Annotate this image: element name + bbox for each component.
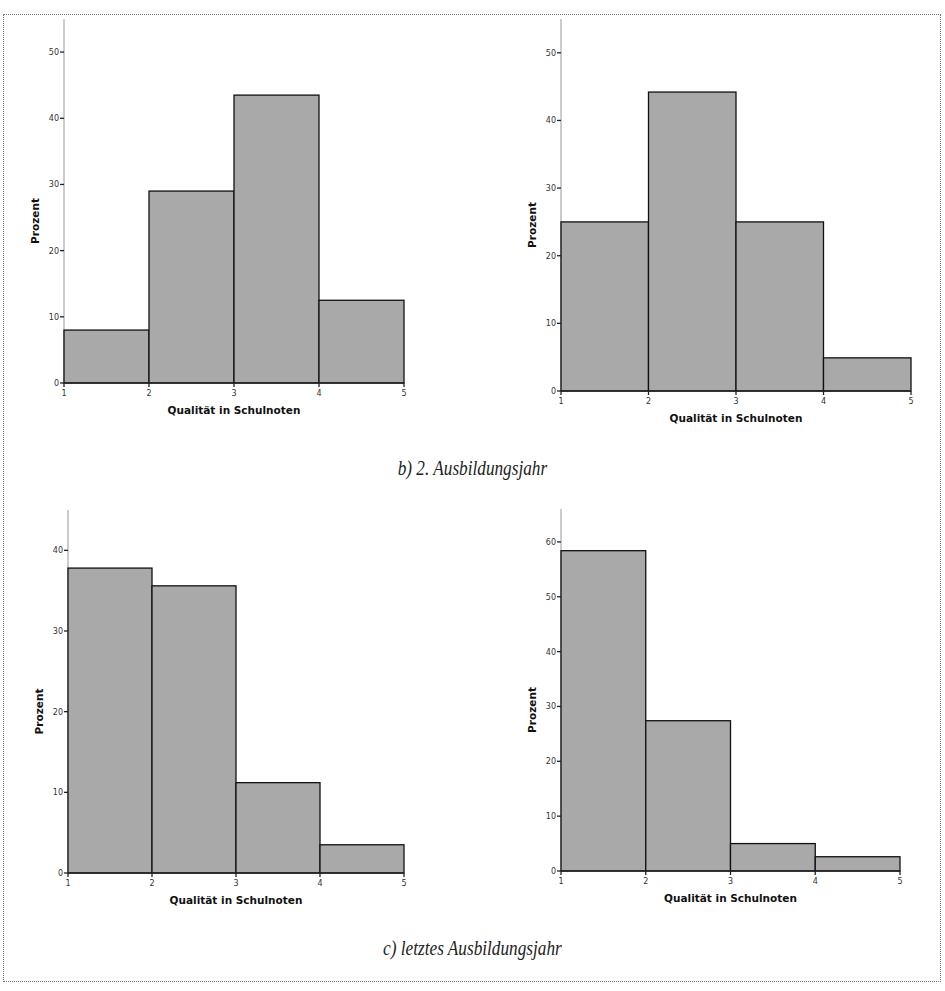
x-tick-label: 1 xyxy=(65,879,70,888)
histogram-bar xyxy=(320,845,404,873)
y-tick-label: 10 xyxy=(53,788,63,797)
x-tick-label: 1 xyxy=(61,389,66,398)
y-tick-label: 10 xyxy=(49,313,59,322)
x-axis-title: Qualität in Schulnoten xyxy=(168,404,301,416)
y-tick-label: 30 xyxy=(53,627,63,636)
y-tick-label: 40 xyxy=(546,648,556,657)
x-tick-label: 4 xyxy=(317,879,322,888)
y-tick-label: 10 xyxy=(546,319,556,328)
x-tick-label: 5 xyxy=(401,879,406,888)
x-axis-title: Qualität in Schulnoten xyxy=(670,412,803,424)
histogram-bar xyxy=(815,857,900,871)
y-tick-label: 30 xyxy=(546,702,556,711)
y-tick-label: 60 xyxy=(546,538,556,547)
y-tick-label: 20 xyxy=(53,708,63,717)
y-tick-label: 20 xyxy=(546,757,556,766)
histogram-bar xyxy=(68,568,152,873)
x-axis-title: Qualität in Schulnoten xyxy=(170,894,303,906)
x-axis-title: Qualität in Schulnoten xyxy=(664,892,797,904)
y-tick-label: 0 xyxy=(58,869,63,878)
y-tick-label: 40 xyxy=(53,546,63,555)
histogram-bar xyxy=(824,358,912,391)
x-tick-label: 5 xyxy=(401,389,406,398)
y-tick-label: 20 xyxy=(49,247,59,256)
histogram-top-right: 0102030405012345Qualität in SchulnotenPr… xyxy=(526,19,914,424)
x-tick-label: 4 xyxy=(316,389,321,398)
y-tick-label: 0 xyxy=(551,387,556,396)
x-tick-label: 3 xyxy=(231,389,236,398)
histogram-bar xyxy=(149,191,234,383)
y-tick-label: 30 xyxy=(546,184,556,193)
y-tick-label: 10 xyxy=(546,812,556,821)
y-tick-label: 30 xyxy=(49,180,59,189)
x-tick-label: 3 xyxy=(233,879,238,888)
histogram-bar xyxy=(236,783,320,873)
y-axis-title: Prozent xyxy=(33,689,45,735)
y-axis-title: Prozent xyxy=(29,198,41,244)
y-axis-title: Prozent xyxy=(526,202,538,248)
caption-second-year: b) 2. Ausbildungsjahr xyxy=(85,456,860,481)
x-tick-label: 2 xyxy=(643,877,648,886)
y-tick-label: 50 xyxy=(546,49,556,58)
histogram-bar xyxy=(561,222,649,391)
x-tick-label: 1 xyxy=(558,397,563,406)
y-tick-label: 40 xyxy=(49,114,59,123)
histogram-bar xyxy=(561,551,646,871)
x-tick-label: 2 xyxy=(149,879,154,888)
caption-final-year: c) letztes Ausbildungsjahr xyxy=(85,936,860,961)
histogram-bar xyxy=(649,92,737,391)
y-axis-title: Prozent xyxy=(526,687,538,733)
y-tick-label: 0 xyxy=(54,379,59,388)
histogram-bottom-right: 010203040506012345Qualität in Schulnoten… xyxy=(526,509,903,904)
x-tick-label: 2 xyxy=(646,397,651,406)
x-tick-label: 4 xyxy=(813,877,818,886)
histogram-bar xyxy=(731,844,816,871)
x-tick-label: 1 xyxy=(558,877,563,886)
x-tick-label: 2 xyxy=(146,389,151,398)
y-tick-label: 0 xyxy=(551,867,556,876)
histogram-figure: 0102030405012345Qualität in SchulnotenPr… xyxy=(0,0,945,991)
x-tick-label: 5 xyxy=(908,397,913,406)
y-tick-label: 40 xyxy=(546,116,556,125)
histogram-bottom-left: 01020304012345Qualität in SchulnotenProz… xyxy=(33,510,407,906)
y-tick-label: 50 xyxy=(49,48,59,57)
histogram-bar xyxy=(736,222,824,391)
x-tick-label: 4 xyxy=(821,397,826,406)
histogram-top-left: 0102030405012345Qualität in SchulnotenPr… xyxy=(29,19,407,416)
x-tick-label: 3 xyxy=(733,397,738,406)
histogram-bar xyxy=(234,95,319,383)
x-tick-label: 3 xyxy=(728,877,733,886)
histogram-bar xyxy=(646,721,731,871)
histogram-bar xyxy=(319,300,404,383)
histogram-bar xyxy=(64,330,149,383)
histogram-bar xyxy=(152,586,236,873)
y-tick-label: 50 xyxy=(546,593,556,602)
y-tick-label: 20 xyxy=(546,252,556,261)
x-tick-label: 5 xyxy=(897,877,902,886)
